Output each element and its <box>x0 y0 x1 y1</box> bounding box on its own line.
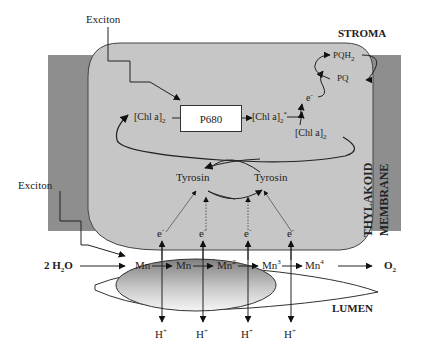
h-text: H <box>241 328 249 340</box>
h-sup: + <box>163 327 167 335</box>
pqh2-text: PQH <box>333 50 351 60</box>
water-text: 2 H <box>44 259 61 271</box>
e-sup: - <box>162 226 164 234</box>
chl-a-ground: [Chl a]2 <box>295 128 327 138</box>
electron-3: e- <box>244 228 251 239</box>
proton-1: H+ <box>155 329 167 340</box>
exciton-top-label: Exciton <box>86 14 120 25</box>
p680-label: P680 <box>200 113 223 125</box>
lumen-label: LUMEN <box>332 303 373 314</box>
tyrosin-right-label: Tyrosin <box>254 172 287 183</box>
h-sup: + <box>204 327 208 335</box>
h-text: H <box>284 328 292 340</box>
mn-sup: 3 <box>277 258 281 266</box>
pqh2-label: PQH2 <box>333 51 355 60</box>
mn-text: Mn <box>262 259 277 271</box>
proton-2: H+ <box>196 329 208 340</box>
h-text: H <box>155 328 163 340</box>
proton-3: H+ <box>241 329 253 340</box>
stroma-label: STROMA <box>338 28 386 39</box>
mn-text: Mn <box>176 259 191 271</box>
mn-sup: 4 <box>320 258 324 266</box>
membrane-label-line1: THYLAKOID <box>360 135 376 265</box>
chl-a-sub: 2 <box>162 117 166 125</box>
pq-label: PQ <box>337 74 349 83</box>
membrane-label-line2: MEMBRANE <box>376 135 392 265</box>
oxygen-label: O2 <box>384 260 396 271</box>
mn-state-3: Mn3 <box>262 260 281 271</box>
h-text: H <box>196 328 204 340</box>
water-text-end: O <box>64 259 73 271</box>
chl-a-excited: [Chl a]2* <box>252 112 287 122</box>
tyrosin-left-label: Tyrosin <box>176 172 209 183</box>
electron-1: e- <box>157 228 164 239</box>
chl-a-text: [Chl a] <box>252 111 280 122</box>
p680-reaction-center: P680 <box>180 105 242 132</box>
electron-top: e- <box>306 93 313 103</box>
mn-text: Mn <box>135 259 150 271</box>
proton-4: H+ <box>284 329 296 340</box>
mn-text: Mn <box>217 259 232 271</box>
h-sup: + <box>292 327 296 335</box>
thylakoid-membrane-label: THYLAKOID MEMBRANE <box>360 135 400 265</box>
chl-a-sub: 2 <box>323 133 327 141</box>
mn-state-4: Mn4 <box>305 260 324 271</box>
mn-state-2: Mn2 <box>217 260 236 271</box>
chl-a-text: [Chl a] <box>295 127 323 138</box>
mn-text: Mn <box>305 259 320 271</box>
photosystem-complex <box>88 43 373 250</box>
oxygen-text: O <box>384 259 393 271</box>
exciton-left-label: Exciton <box>18 180 52 191</box>
electron-2: e- <box>199 228 206 239</box>
water-label: 2 H2O <box>44 260 73 271</box>
electron-4: e- <box>287 228 294 239</box>
exciton-left-arrow <box>88 245 125 256</box>
mn-state-0: Mn <box>135 260 150 271</box>
oxygen-sub: 2 <box>393 266 397 274</box>
chl-a-text: [Chl a] <box>134 111 162 122</box>
e-sup: - <box>204 226 206 234</box>
e-sup: - <box>310 91 312 99</box>
h-sup: + <box>249 327 253 335</box>
mn-sup: 2 <box>232 258 236 266</box>
pqh2-sub: 2 <box>351 55 355 63</box>
mn-state-1: Mn <box>176 260 191 271</box>
e-sup: - <box>249 226 251 234</box>
chl-a-left: [Chl a]2 <box>134 112 166 122</box>
e-sup: - <box>292 226 294 234</box>
chl-a-sub: 2 <box>280 117 284 125</box>
chl-a-sup: * <box>284 110 288 118</box>
